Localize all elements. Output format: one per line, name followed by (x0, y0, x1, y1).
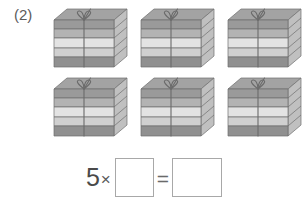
multiplier-value: 5 (86, 165, 100, 190)
gift-box-cell-5 (139, 76, 217, 142)
gift-box-grid (52, 7, 304, 145)
gift-box-cell-2 (139, 7, 217, 73)
gift-box-cell-6 (226, 76, 304, 142)
gift-box-stack-icon (52, 7, 130, 73)
answer-blank-1[interactable] (115, 158, 154, 197)
gift-box-stack-icon (226, 76, 304, 142)
multiplication-sign: × (101, 171, 111, 188)
gift-box-stack-icon (139, 7, 217, 73)
answer-blank-2[interactable] (172, 158, 222, 197)
gift-box-cell-3 (226, 7, 304, 73)
worksheet-page: (2) (0, 0, 308, 205)
problem-number-label: (2) (14, 7, 32, 22)
equals-sign: = (157, 168, 169, 189)
equation-row: 5 × = (0, 152, 308, 202)
gift-box-stack-icon (226, 7, 304, 73)
gift-box-stack-icon (52, 76, 130, 142)
gift-box-stack-icon (139, 76, 217, 142)
gift-box-cell-1 (52, 7, 130, 73)
gift-box-cell-4 (52, 76, 130, 142)
